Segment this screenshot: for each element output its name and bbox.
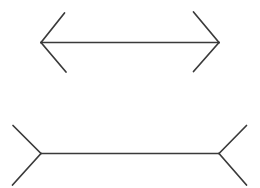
muller-lyer-diagram bbox=[0, 0, 260, 188]
illusion-figure-canvas bbox=[0, 0, 260, 188]
background-rect bbox=[0, 0, 260, 188]
